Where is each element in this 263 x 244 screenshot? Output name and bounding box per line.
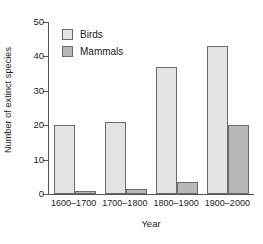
x-axis-line (48, 194, 254, 195)
bar-group (152, 22, 203, 194)
x-axis-tick-labels: 1600–17001700–18001800–19001900–2000 (48, 198, 254, 212)
y-axis-tick-label: 10 (33, 154, 44, 165)
chart-legend: BirdsMammals (62, 26, 123, 60)
y-axis-tick-label: 50 (33, 16, 44, 27)
extinct-species-bar-chart: Number of extinct species 01020304050 16… (0, 0, 263, 244)
legend-swatch-mammals (62, 46, 73, 57)
bar-mammals-1700–1800 (126, 189, 147, 194)
x-axis-title: Year (48, 218, 254, 229)
bar-birds-1800–1900 (156, 67, 177, 194)
legend-label: Mammals (80, 46, 123, 57)
bar-mammals-1800–1900 (177, 182, 198, 194)
legend-item-birds: Birds (62, 26, 123, 43)
bar-birds-1900–2000 (207, 46, 228, 194)
x-axis-tick-label: 1900–2000 (202, 198, 253, 208)
x-axis-tick-label: 1800–1900 (151, 198, 202, 208)
bar-birds-1600–1700 (54, 125, 75, 194)
y-axis-tick-label: 30 (33, 85, 44, 96)
x-axis-tick-label: 1700–1800 (99, 198, 150, 208)
bar-mammals-1900–2000 (228, 125, 249, 194)
y-axis-title: Number of extinct species (0, 0, 16, 200)
x-axis-tick-label: 1600–1700 (48, 198, 99, 208)
bar-group (203, 22, 254, 194)
y-axis-title-text: Number of extinct species (3, 47, 13, 153)
legend-label: Birds (80, 29, 103, 40)
y-axis-tick-label: 20 (33, 119, 44, 130)
y-axis-tick-label: 40 (33, 50, 44, 61)
bar-mammals-1600–1700 (75, 191, 96, 194)
legend-item-mammals: Mammals (62, 43, 123, 60)
legend-swatch-birds (62, 29, 73, 40)
bar-birds-1700–1800 (105, 122, 126, 194)
y-axis-tick-label: 0 (39, 188, 44, 199)
